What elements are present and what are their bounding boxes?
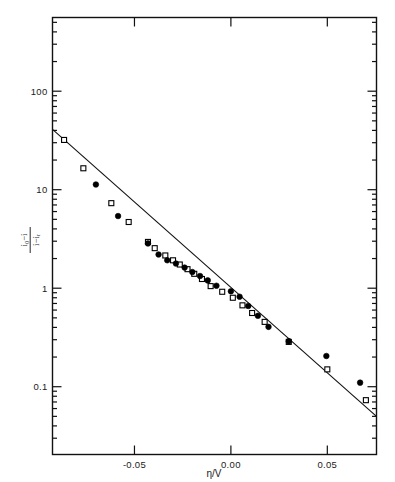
data-point-open-square <box>363 398 368 403</box>
x-tick-label: 0.00 <box>221 459 241 470</box>
data-point-filled-circle <box>228 289 234 295</box>
data-point-open-square <box>220 289 225 294</box>
data-point-open-square <box>208 284 213 289</box>
data-point-open-square <box>62 137 67 142</box>
y-tick-label: 0.1 <box>33 381 47 392</box>
data-point-open-square <box>81 166 86 171</box>
x-tick-label: -0.05 <box>123 459 146 470</box>
data-point-filled-circle <box>173 261 179 267</box>
scatter-plot: 1001010.1 -0.050.000.05 η/V i₀−i i−iᵣ <box>0 0 395 482</box>
data-point-filled-circle <box>182 265 188 271</box>
data-point-filled-circle <box>245 303 251 309</box>
x-axis-title: η/V <box>206 468 221 479</box>
data-point-open-square <box>109 201 114 206</box>
data-point-filled-circle <box>286 338 292 344</box>
y-tick-label: 10 <box>36 184 47 195</box>
y-axis-title-numerator: i₀−i <box>19 233 29 247</box>
data-point-filled-circle <box>93 182 99 188</box>
data-point-filled-circle <box>164 257 170 263</box>
data-point-filled-circle <box>237 294 243 300</box>
data-point-open-square <box>152 246 157 251</box>
data-point-open-square <box>250 311 255 316</box>
data-point-filled-circle <box>115 213 121 219</box>
data-point-filled-circle <box>266 324 272 330</box>
data-point-filled-circle <box>197 273 203 279</box>
y-axis-title-denominator: i−iᵣ <box>31 234 41 246</box>
y-tick-label: 1 <box>42 283 48 294</box>
plot-background <box>0 0 395 482</box>
data-point-open-square <box>230 295 235 300</box>
data-point-filled-circle <box>145 241 151 247</box>
data-point-filled-circle <box>214 283 220 289</box>
data-point-open-square <box>325 367 330 372</box>
data-point-filled-circle <box>190 269 196 275</box>
data-point-filled-circle <box>255 313 261 319</box>
data-point-open-square <box>262 319 267 324</box>
data-point-open-square <box>240 303 245 308</box>
data-point-open-square <box>126 220 131 225</box>
y-tick-label: 100 <box>31 86 48 97</box>
data-point-filled-circle <box>324 353 330 359</box>
x-tick-label: 0.05 <box>317 459 337 470</box>
figure-container: 1001010.1 -0.050.000.05 η/V i₀−i i−iᵣ <box>0 0 395 482</box>
data-point-filled-circle <box>205 278 211 284</box>
data-point-filled-circle <box>156 252 162 258</box>
data-point-filled-circle <box>357 380 363 386</box>
